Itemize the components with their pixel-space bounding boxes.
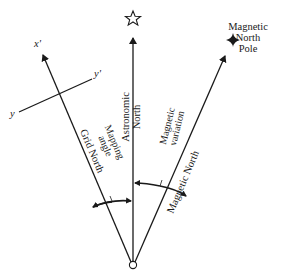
y-label: y bbox=[9, 108, 15, 119]
mapping-angle-arc bbox=[93, 196, 131, 207]
svg-text:Pole: Pole bbox=[239, 43, 258, 54]
magnetic-variation-label: Magnetic variation bbox=[157, 106, 187, 148]
north-reference-diagram: x' y' y Astronomic North Grid North Mapp… bbox=[0, 0, 288, 274]
svg-text:North: North bbox=[236, 32, 261, 43]
svg-text:North: North bbox=[131, 104, 142, 129]
magnetic-north-line bbox=[135, 56, 225, 262]
svg-text:Astronomic: Astronomic bbox=[120, 92, 131, 142]
y-prime-label: y' bbox=[93, 68, 102, 79]
origin-point bbox=[129, 261, 136, 268]
star-outline-icon bbox=[125, 11, 140, 25]
svg-text:Magnetic: Magnetic bbox=[228, 21, 268, 32]
astronomic-north-label: Astronomic North bbox=[120, 92, 142, 142]
x-prime-label: x' bbox=[33, 38, 42, 49]
